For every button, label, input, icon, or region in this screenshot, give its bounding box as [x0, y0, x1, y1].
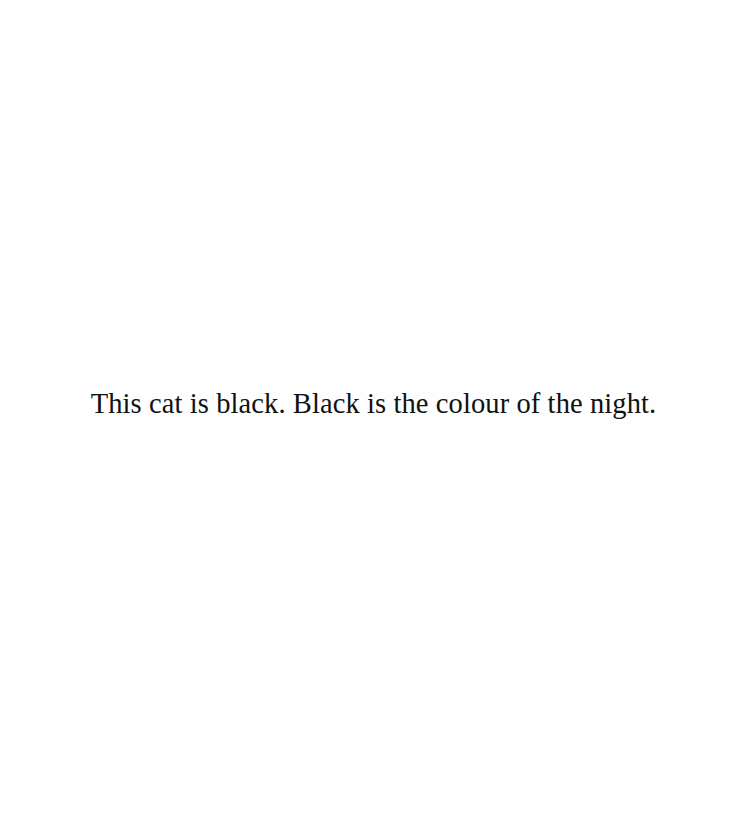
document-page: This cat is black. Black is the colour o…: [0, 0, 747, 834]
body-sentence: This cat is black. Black is the colour o…: [0, 386, 747, 422]
